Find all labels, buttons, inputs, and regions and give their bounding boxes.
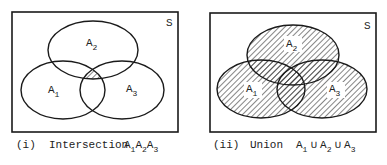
set-a1-label: A1 (48, 84, 60, 99)
caption-union: (ii) Union A1∪A2∪A3 (213, 139, 356, 154)
caption-intersection: (i) Intersection A1A2A3 (16, 139, 158, 154)
set-a2-label: A2 (86, 37, 98, 52)
universe-label: S (166, 17, 173, 29)
universe-label: S (364, 20, 371, 32)
set-a3-circle (80, 61, 164, 119)
intersection-diagram: S A2 A1 A3 (i) Intersection A1A2A3 (12, 12, 178, 154)
set-a3-label: A3 (126, 83, 138, 98)
union-diagram: S A2 A1 A3 (ii) Union A1∪A2∪A3 (210, 13, 376, 154)
